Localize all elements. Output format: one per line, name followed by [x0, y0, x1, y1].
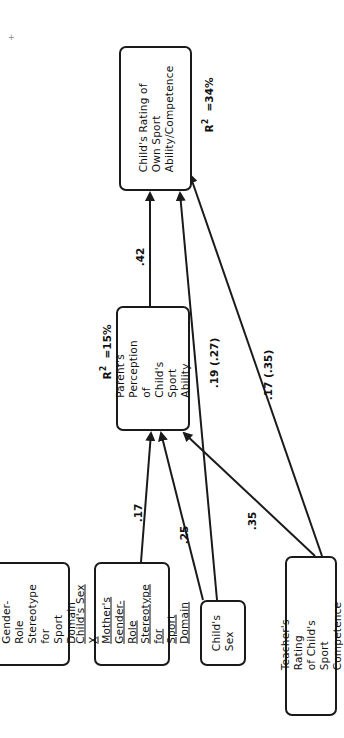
edge-label-sex-to-parent: .25 [178, 526, 190, 545]
node-label: Parent's Perception of Child's Sport Abi… [114, 340, 192, 398]
r-squared-parent-perception: R2 =15% [99, 325, 113, 380]
edge-label-parent-to-child: .42 [134, 248, 146, 267]
node-sex-x-stereotype: Child's Sex X Mother's Gender-Role Stere… [94, 562, 170, 666]
edge-label-teacher-to-parent: .35 [246, 512, 258, 531]
node-child-sex: Child's Sex [200, 600, 246, 666]
edge-label-teacher-to-child-rating: .17 (.35) [262, 350, 274, 400]
edge-label-interaction-to-parent: .17 [132, 504, 144, 523]
node-label: Child's Rating of Own Sport Ability/Comp… [136, 65, 175, 172]
node-parent-perception: Parent's Perception of Child's Sport Abi… [116, 306, 190, 431]
r-squared-child-rating: R2 =34% [201, 78, 215, 133]
node-label: Teacher's Rating of Child's Sport Compet… [279, 602, 344, 671]
node-label: Mother's Gender-Role Stereotype for Spor… [0, 584, 78, 644]
edge-label-sex-to-child-rating: .19 (.27) [208, 338, 220, 388]
node-child-rating: Child's Rating of Own Sport Ability/Comp… [119, 46, 192, 191]
edge-interaction-to-parent [141, 433, 151, 562]
node-teacher-rating: Teacher's Rating of Child's Sport Compet… [285, 556, 337, 716]
node-label: Child's Sex X Mother's Gender-Role Stere… [74, 584, 191, 644]
node-label: Child's Sex [210, 615, 236, 651]
node-mother-stereotype: Mother's Gender-Role Stereotype for Spor… [0, 562, 70, 666]
